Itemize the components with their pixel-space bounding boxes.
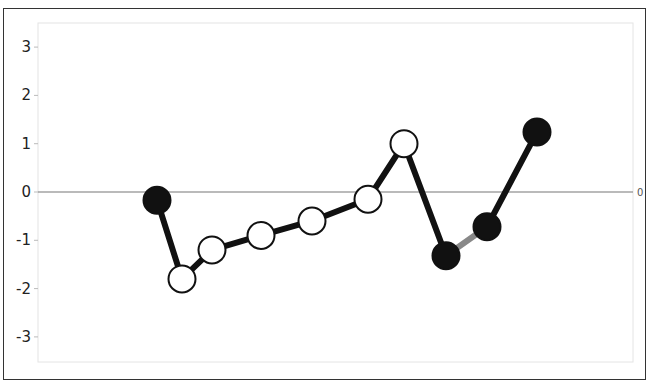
data-point-marker bbox=[355, 186, 382, 213]
y-axis: 3210-1-2-3 bbox=[16, 38, 38, 346]
data-point-marker bbox=[524, 119, 551, 146]
y-tick-label: -1 bbox=[16, 231, 31, 249]
data-point-marker bbox=[169, 265, 196, 292]
data-point-marker bbox=[144, 187, 171, 214]
data-point-marker bbox=[248, 222, 275, 249]
right-zero-label: 0 bbox=[637, 187, 643, 198]
data-point-marker bbox=[474, 213, 501, 240]
line-segment bbox=[404, 144, 446, 256]
y-tick-label: -2 bbox=[16, 280, 31, 298]
data-point-marker bbox=[199, 236, 226, 263]
data-point-marker bbox=[391, 130, 418, 157]
y-tick-label: 1 bbox=[21, 135, 31, 153]
line-segment bbox=[487, 132, 537, 227]
y-tick-label: -3 bbox=[16, 328, 31, 346]
data-point-marker bbox=[299, 207, 326, 234]
y-tick-label: 2 bbox=[21, 86, 31, 104]
y-tick-label: 0 bbox=[21, 183, 31, 201]
data-point-marker bbox=[433, 242, 460, 269]
line-chart: 3210-1-2-3 0 bbox=[0, 0, 650, 384]
y-tick-label: 3 bbox=[21, 38, 31, 56]
